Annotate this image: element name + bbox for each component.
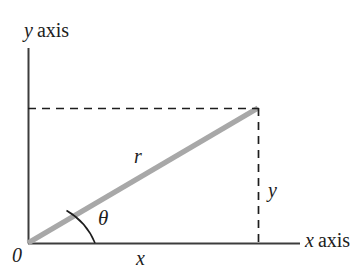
y-axis-label: yaxis — [24, 20, 69, 40]
diagram-canvas — [0, 0, 354, 279]
radius-label: r — [134, 146, 142, 166]
x-axis-label: xaxis — [305, 230, 350, 250]
polar-coordinate-diagram: yaxis xaxis 0 r θ x y — [0, 0, 354, 279]
y-component-label: y — [268, 180, 277, 200]
x-axis-label-variable: x — [305, 229, 314, 251]
y-axis-label-variable: y — [24, 19, 33, 41]
radius-vector-line — [28, 108, 258, 243]
y-axis-label-word: axis — [37, 19, 69, 41]
angle-label: θ — [98, 208, 108, 229]
x-axis-label-word: axis — [318, 229, 350, 251]
x-component-label: x — [136, 248, 145, 268]
origin-label: 0 — [12, 245, 22, 265]
